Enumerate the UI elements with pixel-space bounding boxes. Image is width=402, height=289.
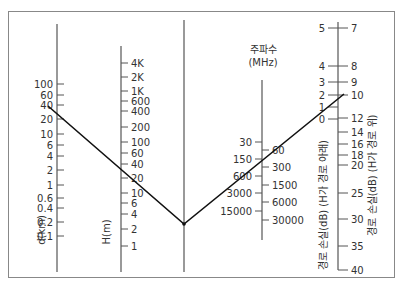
frequency-tick-label: 1500 [272, 180, 297, 191]
height-tick-label: 40 [131, 159, 144, 170]
path-loss-tick-label: 25 [351, 188, 364, 199]
height-tick-label: 1 [131, 241, 137, 252]
height-tick-label: 100 [131, 137, 150, 148]
frequency-tick-label: 6000 [272, 197, 297, 208]
nomogram: 1006040201064210.60.40.20.1 d(km) 4K2K1K… [0, 0, 402, 289]
frequency-tick-label: 30000 [272, 215, 304, 226]
height-tick-label: 4K [131, 58, 144, 69]
path-loss-tick-label: 16 [351, 139, 364, 150]
height-tick-label: 20 [131, 173, 144, 184]
distance-tick-label: 4 [47, 151, 53, 162]
distance-tick-label: 10 [40, 129, 53, 140]
path-loss-tick-label: 8 [351, 61, 357, 72]
distance-axis-title: d(km) [36, 215, 47, 245]
path-loss-tick-label: 9 [351, 77, 357, 88]
path-loss-tick-label: 4 [319, 61, 325, 72]
distance-tick-label: 2 [47, 165, 53, 176]
frequency-axis-unit: (MHz) [248, 57, 277, 68]
height-tick-label: 400 [131, 106, 150, 117]
height-tick-label: 4 [131, 209, 137, 220]
path-loss-tick-label: 20 [351, 160, 364, 171]
path-loss-tick-label: 10 [351, 90, 364, 101]
height-axis-title: H(m) [101, 219, 112, 244]
path-loss-tick-label: 7 [351, 23, 357, 34]
distance-tick-label: 6 [47, 140, 53, 151]
path-loss-title-above: 경로 손실(dB) (H가 경로 위) [366, 114, 378, 235]
height-tick-label: 2K [131, 72, 144, 83]
frequency-tick-label: 15000 [220, 206, 252, 217]
height-tick-label: 60 [131, 148, 144, 159]
frequency-axis-title: 주파수 [250, 44, 277, 55]
path-loss-tick-label: 12 [351, 113, 364, 124]
path-loss-tick-label: 30 [351, 214, 364, 225]
pivot-point [182, 222, 186, 226]
path-loss-tick-label: 40 [351, 265, 364, 276]
path-loss-tick-label: 14 [351, 127, 364, 138]
height-tick-label: 2 [131, 224, 137, 235]
path-loss-tick-label: 35 [351, 241, 364, 252]
distance-tick-label: 0.4 [37, 203, 53, 214]
height-tick-label: 200 [131, 122, 150, 133]
distance-tick-label: 100 [34, 79, 53, 90]
height-ticks: 4K2K1K600400200100604020106421 [121, 58, 150, 252]
distance-tick-label: 1 [47, 180, 53, 191]
height-tick-label: 6 [131, 198, 137, 209]
path-loss-tick-label: 0 [319, 114, 325, 125]
distance-tick-label: 20 [40, 114, 53, 125]
diagram-frame [9, 12, 395, 278]
frequency-tick-label: 150 [233, 154, 252, 165]
path-loss-tick-label: 2 [319, 90, 325, 101]
example-solution-line [48, 94, 344, 224]
frequency-tick-label: 300 [272, 162, 291, 173]
path-loss-tick-label: 5 [319, 23, 325, 34]
path-loss-tick-label: 3 [319, 77, 325, 88]
frequency-tick-label: 3000 [227, 188, 252, 199]
path-loss-title-below: 경로 손실(dB) (H가 경로 아래) [317, 140, 329, 270]
frequency-tick-label: 30 [239, 137, 252, 148]
